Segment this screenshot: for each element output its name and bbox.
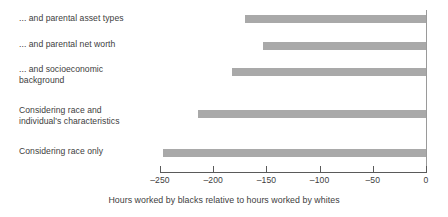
x-tick-1 — [213, 166, 214, 173]
bar-chart: ... and parental asset types ... and par… — [0, 0, 448, 217]
x-tick-label-5: 0 — [406, 175, 446, 186]
x-axis-line — [160, 172, 426, 173]
x-tick-4 — [373, 166, 374, 173]
bar-0 — [245, 15, 426, 23]
x-tick-2 — [266, 166, 267, 173]
bar-3 — [198, 110, 426, 118]
x-tick-3 — [320, 166, 321, 173]
x-tick-label-4: –50 — [353, 175, 393, 186]
plot-area: –250 –200 –150 –100 –50 0 — [0, 0, 448, 217]
x-tick-0 — [160, 166, 161, 173]
zero-reference-line — [426, 10, 427, 173]
x-tick-label-3: –100 — [300, 175, 340, 186]
x-tick-label-0: –250 — [140, 175, 180, 186]
x-axis-title: Hours worked by blacks relative to hours… — [0, 195, 448, 205]
bar-4 — [163, 149, 426, 157]
x-tick-label-1: –200 — [193, 175, 233, 186]
bar-1 — [263, 42, 426, 50]
x-tick-5 — [426, 166, 427, 173]
x-tick-label-2: –150 — [246, 175, 286, 186]
bar-2 — [232, 68, 426, 76]
